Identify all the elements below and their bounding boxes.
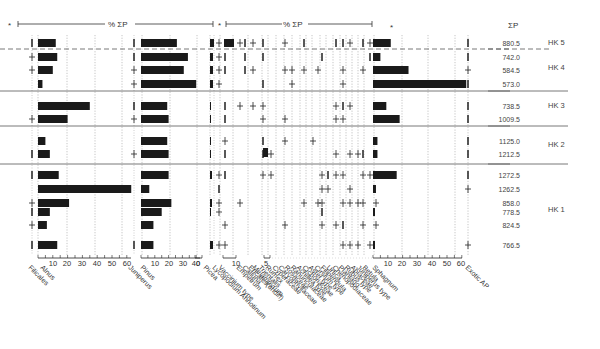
axis-tick-label: 50: [443, 259, 451, 268]
sphagnum-bar: [373, 80, 466, 88]
pinus-bar: [141, 221, 153, 229]
sample-sum: 1212.5: [499, 151, 521, 158]
axis-tick-label: 40: [428, 259, 436, 268]
left-marker: *: [8, 21, 11, 30]
unit-label-2: % ΣP: [283, 20, 303, 29]
sample-sum: 858.0: [502, 200, 520, 207]
zone-label: HK 4: [548, 63, 565, 72]
pinus-bar: [141, 185, 149, 193]
axis-tick-label: 0: [196, 259, 200, 268]
pollen-diagram: *% ΣP*% ΣP*ΣP102030405060102030400105102…: [0, 0, 600, 349]
sample-sum: 584.5: [502, 67, 520, 74]
zone-label: HK 2: [548, 140, 565, 149]
alnus-bar: [38, 185, 131, 193]
axis-tick-label: 60: [457, 259, 465, 268]
sphagnum-bar: [373, 208, 375, 216]
sphagnum-bar: [373, 150, 377, 158]
alnus-bar: [38, 66, 53, 74]
alnus-bar: [38, 150, 50, 158]
taxon-label: Exotic AP: [464, 264, 490, 290]
alnus-bar: [38, 171, 59, 179]
axis-tick-label: 20: [63, 259, 71, 268]
sphagnum-bar: [373, 171, 397, 179]
axis-tick-label: 10: [49, 259, 57, 268]
axis-tick-label: 10: [151, 259, 159, 268]
axis-tick-label: 30: [78, 259, 86, 268]
sample-sum: 824.5: [502, 222, 520, 229]
mid-marker: *: [218, 21, 221, 30]
pinus-bar: [141, 102, 167, 110]
sample-sum: 742.0: [502, 54, 520, 61]
sample-sum: 778.5: [502, 209, 520, 216]
unit-label: % ΣP: [108, 20, 128, 29]
pinus-bar: [141, 53, 188, 61]
sphagnum-bar: [373, 53, 380, 61]
sphagnum-bar: [373, 39, 391, 47]
alnus-bar: [38, 115, 68, 123]
sample-sum: 880.5: [502, 40, 520, 47]
alnus-bar: [38, 241, 57, 249]
axis-tick-label: 30: [413, 259, 421, 268]
pinus-bar: [141, 39, 177, 47]
sample-sum: 573.0: [502, 81, 520, 88]
alnus-bar: [38, 137, 45, 145]
axis-tick-label: 20: [398, 259, 406, 268]
axis-tick-label: 30: [179, 259, 187, 268]
axis-tick-label: 20: [165, 259, 173, 268]
sphagnum-bar: [373, 102, 386, 110]
sample-sum: 1272.5: [499, 172, 521, 179]
alnus-bar: [38, 53, 57, 61]
sphagnum-bar: [373, 185, 376, 193]
sample-sum: 738.5: [502, 103, 520, 110]
sample-sum: 1125.0: [499, 138, 520, 145]
sphagnum-bar: [373, 66, 409, 74]
alnus-bar: [38, 102, 90, 110]
sample-sum: 766.5: [502, 242, 520, 249]
pinus-bar: [141, 80, 196, 88]
alnus-bar: [38, 80, 42, 88]
alnus-bar: [38, 39, 56, 47]
sphagnum-bar: [373, 241, 375, 249]
alnus-bar: [38, 208, 50, 216]
zone-label: HK 5: [548, 38, 565, 47]
sum-label: ΣP: [508, 21, 518, 30]
zone-label: HK 1: [548, 205, 565, 214]
axis-tick-label: 40: [93, 259, 101, 268]
pinus-bar: [141, 171, 169, 179]
alnus-bar: [38, 199, 69, 207]
sample-sum: 1262.5: [499, 186, 521, 193]
pinus-bar: [141, 241, 153, 249]
sample-sum: 1009.5: [499, 116, 521, 123]
pinus-bar: [141, 137, 167, 145]
right-marker: *: [390, 23, 393, 32]
alnus-bar: [38, 221, 47, 229]
sphagnum-bar: [373, 115, 400, 123]
pinus-bar: [141, 208, 162, 216]
pinus-bar: [141, 150, 169, 158]
sphagnum-bar: [373, 137, 377, 145]
axis-tick-label: 50: [108, 259, 116, 268]
pinus-bar: [141, 66, 184, 74]
zone-label: HK 3: [548, 101, 565, 110]
pinus-bar: [141, 199, 171, 207]
axis-tick-label: 10: [384, 259, 392, 268]
pinus-bar: [141, 115, 169, 123]
